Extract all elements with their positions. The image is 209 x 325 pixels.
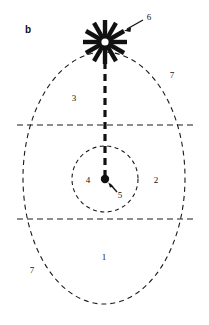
arrow-to-center-dot	[108, 182, 117, 192]
callout-6: 6	[147, 13, 152, 22]
diagram-canvas	[0, 0, 209, 325]
arrow-to-starburst	[124, 20, 143, 32]
callout-4: 4	[86, 176, 91, 185]
starburst-marker	[83, 20, 127, 64]
center-filled-dot	[101, 175, 109, 183]
callout-7-top: 7	[170, 71, 175, 80]
starburst-hub	[101, 38, 108, 45]
callout-7-bottom: 7	[30, 266, 35, 275]
panel-letter-b: b	[25, 25, 31, 35]
callout-5: 5	[118, 191, 123, 200]
figure-panel-b: b67342517	[0, 0, 209, 325]
callout-2: 2	[154, 176, 159, 185]
callout-1: 1	[102, 253, 107, 262]
callout-3: 3	[72, 94, 77, 103]
